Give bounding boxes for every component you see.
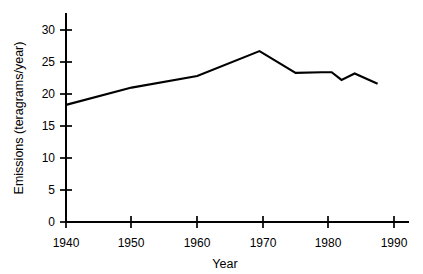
y-tick-label-0: 0 [48, 215, 55, 229]
y-axis-title: Emissions (teragrams/year) [12, 42, 26, 195]
y-tick-label-10: 10 [42, 151, 56, 165]
x-tick-label-1970: 1970 [250, 236, 277, 250]
x-tick-label-1990: 1990 [381, 236, 408, 250]
x-tick-label-1940: 1940 [53, 236, 80, 250]
x-tick-label-1960: 1960 [184, 236, 211, 250]
x-tick-label-1950: 1950 [118, 236, 145, 250]
y-tick-label-20: 20 [42, 87, 56, 101]
y-tick-label-25: 25 [42, 55, 56, 69]
x-axis-group: 1940 1950 1960 1970 1980 1990 Year [53, 216, 409, 271]
y-tick-label-15: 15 [42, 119, 56, 133]
x-tick-labels: 1940 1950 1960 1970 1980 1990 [53, 236, 408, 250]
y-tick-labels: 0 5 10 15 20 25 30 [42, 23, 56, 229]
y-tick-label-5: 5 [48, 183, 55, 197]
x-axis-title: Year [212, 257, 237, 271]
chart-plot-area: 0 5 10 15 20 25 30 Emissions (teragrams/… [0, 0, 423, 274]
emissions-line-chart: 0 5 10 15 20 25 30 Emissions (teragrams/… [0, 0, 423, 274]
emissions-series-line [66, 51, 378, 105]
y-axis-group: 0 5 10 15 20 25 30 Emissions (teragrams/… [12, 13, 72, 229]
y-tick-label-30: 30 [42, 23, 56, 37]
x-tick-label-1980: 1980 [315, 236, 342, 250]
